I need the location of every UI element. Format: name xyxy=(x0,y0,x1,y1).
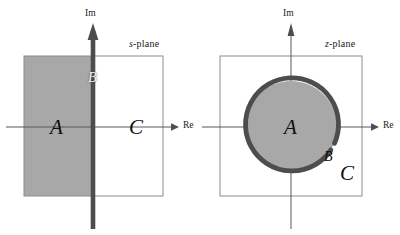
z-plane-imaginary-axis-arrowhead xyxy=(288,23,295,36)
figure-root: s-plane Im Re A B C z-plane Im Re xyxy=(0,0,400,235)
s-plane-imaginary-axis-arrowhead xyxy=(88,23,99,40)
s-plane-re-axis-label: Re xyxy=(183,120,194,130)
panel-s-plane: s-plane Im Re A B C xyxy=(0,0,200,235)
panel-z-plane: z-plane Im Re A B C xyxy=(200,0,400,235)
z-plane-im-axis-label: Im xyxy=(283,8,294,18)
z-plane-label-C: C xyxy=(340,163,354,184)
z-plane-label-A: A xyxy=(284,117,297,138)
z-plane-label-B: B xyxy=(324,150,333,164)
s-plane-im-axis-label: Im xyxy=(85,8,96,18)
z-plane-title-suffix: -plane xyxy=(329,38,355,49)
s-plane-label-A: A xyxy=(50,117,63,138)
z-plane-real-axis-arrowhead xyxy=(371,123,379,131)
z-plane-graphic xyxy=(200,0,400,235)
s-plane-title-suffix: -plane xyxy=(133,38,159,49)
z-plane-re-axis-label: Re xyxy=(383,120,394,130)
s-plane-graphic xyxy=(0,0,200,235)
s-plane-label-C: C xyxy=(129,117,143,138)
s-plane-label-B: B xyxy=(88,71,97,85)
s-plane-title: s-plane xyxy=(129,38,159,49)
z-plane-title: z-plane xyxy=(325,38,355,49)
s-plane-real-axis-arrowhead xyxy=(171,123,179,131)
